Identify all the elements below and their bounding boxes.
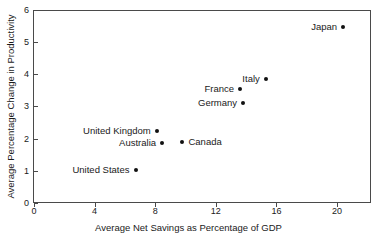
x-axis-title: Average Net Savings as Percentage of GDP [0,222,377,233]
y-axis-tick [34,139,38,140]
x-axis-tick-label: 20 [322,206,352,216]
y-axis-tick [34,42,38,43]
y-axis-tick [34,203,38,204]
data-point [264,77,268,81]
data-point-label: Italy [242,74,259,84]
x-axis-tick-label: 12 [201,206,231,216]
y-axis-title: Average Percentage Change in Productivit… [5,7,16,207]
x-axis-tick-label: 4 [80,206,110,216]
data-point-label: Germany [198,98,237,108]
x-axis-tick-label: 16 [261,206,291,216]
x-axis-tick-label: 8 [140,206,170,216]
y-axis-tick [34,74,38,75]
data-point-label: Australia [119,138,156,148]
scatter-chart: 0481216200123456JapanItalyFranceGermanyU… [0,0,377,239]
data-point-label: France [204,84,234,94]
data-point-label: Japan [311,22,337,32]
data-point [238,87,242,91]
data-point-label: United States [72,165,129,175]
data-point [341,25,345,29]
data-point-label: Canada [188,137,221,147]
y-axis-tick [34,171,38,172]
data-point-label: United Kingdom [83,126,151,136]
y-axis-tick [34,10,38,11]
data-point [134,168,138,172]
y-axis-tick [34,106,38,107]
data-point [155,129,159,133]
